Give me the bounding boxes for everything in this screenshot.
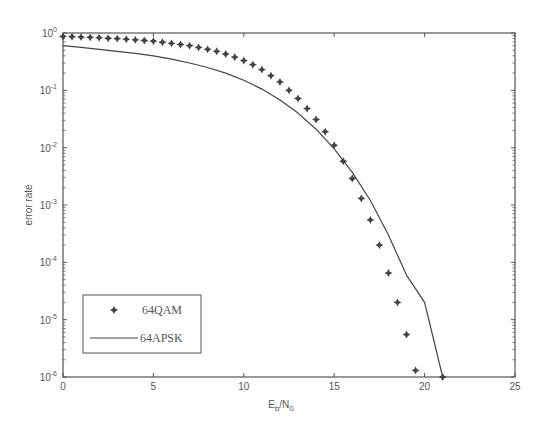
marker-icon: [366, 216, 374, 224]
marker-icon: [140, 36, 148, 44]
marker-icon: [312, 115, 320, 123]
marker-icon: [276, 78, 284, 86]
marker-icon: [59, 32, 67, 40]
marker-icon: [86, 33, 94, 41]
marker-icon: [330, 141, 338, 149]
marker-icon: [122, 35, 130, 43]
marker-icon: [131, 36, 139, 44]
marker-icon: [222, 50, 230, 58]
marker-icon: [393, 298, 401, 306]
marker-icon: [104, 34, 112, 42]
marker-icon: [403, 331, 411, 339]
marker-icon: [204, 45, 212, 53]
y-tick-label: 10-4: [40, 255, 57, 268]
x-tick-label: 10: [238, 381, 250, 392]
x-tick-label: 15: [329, 381, 341, 392]
marker-icon: [167, 39, 175, 47]
y-tick-label: 10-1: [40, 83, 57, 96]
y-tick-label: 10-6: [40, 370, 57, 383]
marker-icon: [177, 41, 185, 49]
marker-icon: [240, 57, 248, 65]
marker-icon: [231, 53, 239, 61]
marker-icon: [95, 34, 103, 42]
y-tick-label: 10-2: [40, 141, 57, 154]
marker-icon: [321, 128, 329, 136]
y-tick-label: 100: [42, 26, 57, 39]
y-tick-label: 10-5: [40, 313, 57, 326]
marker-icon: [303, 105, 311, 113]
x-tick-label: 20: [419, 381, 431, 392]
marker-icon: [285, 86, 293, 94]
marker-icon: [249, 61, 257, 69]
marker-icon: [267, 72, 275, 80]
marker-icon: [384, 269, 392, 277]
marker-icon: [357, 194, 365, 202]
x-tick-label: 5: [151, 381, 157, 392]
marker-icon: [186, 42, 194, 50]
marker-icon: [149, 37, 157, 45]
x-tick-label: 0: [60, 381, 66, 392]
marker-icon: [68, 33, 76, 41]
marker-icon: [439, 373, 447, 381]
ber-chart: 10010-110-210-310-410-510-6 0510152025 e…: [0, 0, 546, 424]
y-axis-label: error rate: [23, 184, 34, 226]
legend: 64QAM 64APSK: [83, 295, 201, 353]
marker-icon: [375, 241, 383, 249]
marker-icon: [258, 66, 266, 74]
marker-icon: [113, 35, 121, 43]
marker-icon: [294, 95, 302, 103]
marker-icon: [158, 38, 166, 46]
x-tick-label: 25: [509, 381, 521, 392]
y-tick-label: 10-3: [40, 198, 57, 211]
marker-icon: [195, 43, 203, 51]
marker-icon: [412, 366, 420, 374]
x-axis-label: Eb/N0: [268, 399, 294, 413]
marker-icon: [77, 33, 85, 41]
marker-icon: [213, 47, 221, 55]
legend-label-64qam: 64QAM: [142, 303, 182, 317]
legend-label-64apsk: 64APSK: [140, 331, 183, 345]
